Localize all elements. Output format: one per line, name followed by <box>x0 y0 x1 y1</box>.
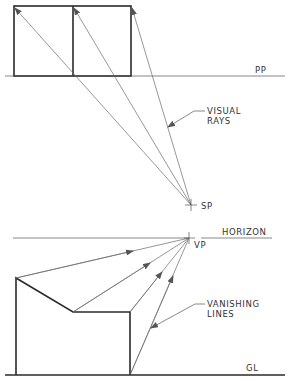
vanishing-line-3-arrow <box>130 272 162 312</box>
visual-rays-label-line1: VISUAL <box>207 106 241 116</box>
ground-line-label: GL <box>246 363 259 373</box>
visual-ray-1 <box>15 8 191 205</box>
visual-ray-2 <box>74 8 191 205</box>
visual-rays-leader <box>168 111 205 127</box>
perspective-diagram: PP VISUAL RAYS SP HORIZON VP <box>0 0 291 381</box>
station-point-label: SP <box>201 201 213 211</box>
picture-plane-label: PP <box>255 65 266 75</box>
vanishing-point-label: VP <box>194 240 206 250</box>
perspective-object-outline <box>16 278 130 375</box>
plan-view: PP VISUAL RAYS SP <box>5 6 285 211</box>
vanishing-line-2-arrow <box>73 263 150 312</box>
vanishing-line-1-arrow <box>16 251 133 278</box>
visual-rays-label-line2: RAYS <box>207 116 231 126</box>
visual-ray-3 <box>132 8 191 205</box>
horizon-label: HORIZON <box>222 227 267 237</box>
vanishing-lines-label-line2: LINES <box>207 309 234 319</box>
vanishing-lines-label-line1: VANISHING <box>207 299 260 309</box>
vanishing-line-4-arrow <box>130 276 173 375</box>
perspective-view: HORIZON VP VANISHING LINES GL <box>5 227 285 375</box>
